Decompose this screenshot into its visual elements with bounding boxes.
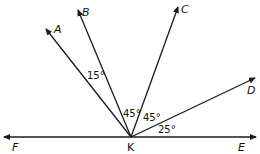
angle-akb: 15° xyxy=(87,70,105,81)
label-k: K xyxy=(127,141,135,154)
label-e: E xyxy=(238,141,245,154)
ray-ka xyxy=(46,29,131,137)
angle-dke: 25° xyxy=(158,124,176,135)
label-d: D xyxy=(247,84,255,97)
label-a: A xyxy=(53,23,62,36)
label-b: B xyxy=(82,6,90,19)
angle-ckd: 45° xyxy=(143,112,161,123)
label-f: F xyxy=(12,141,19,154)
angle-bkc: 45° xyxy=(123,108,141,119)
angle-diagram: A B C D E F K 15° 45° 45° 25° xyxy=(0,0,260,154)
label-c: C xyxy=(181,3,189,16)
